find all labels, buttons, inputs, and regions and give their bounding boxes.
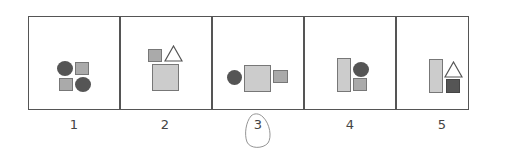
- dark-circle-icon: [353, 62, 369, 77]
- dark-circle-icon: [227, 70, 242, 85]
- dark-square-icon: [446, 79, 460, 93]
- tall-light-rectangle-icon: [337, 58, 351, 92]
- gray-square-icon: [273, 70, 288, 83]
- panel-label-4: 4: [340, 117, 360, 132]
- dark-circle-icon: [75, 77, 91, 92]
- panel-label-1: 1: [64, 117, 84, 132]
- gray-square-icon: [353, 78, 367, 91]
- gray-square-icon: [59, 78, 73, 91]
- panel-label-5: 5: [432, 117, 452, 132]
- panel-strip-frame: [28, 16, 469, 110]
- dark-circle-icon: [57, 61, 73, 76]
- large-light-square-icon: [244, 65, 271, 92]
- gray-square-icon: [75, 62, 89, 75]
- large-light-square-icon: [152, 64, 179, 91]
- panel-divider: [211, 16, 213, 110]
- panel-divider: [303, 16, 305, 110]
- gray-square-icon: [148, 49, 162, 62]
- panel-label-2: 2: [155, 117, 175, 132]
- panel-divider: [395, 16, 397, 110]
- panel-divider: [119, 16, 121, 110]
- tall-light-rectangle-icon: [429, 59, 443, 93]
- triangle-icon: [164, 45, 183, 62]
- triangle-icon: [444, 61, 463, 78]
- answer-circle-mark: [243, 112, 273, 150]
